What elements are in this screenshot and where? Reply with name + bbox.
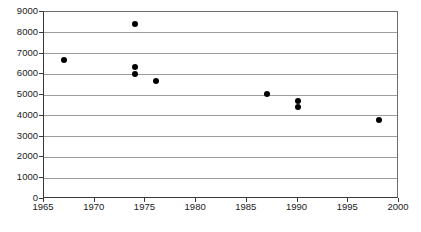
- y-tick-label: 8000: [2, 27, 38, 37]
- x-tick-label: 1965: [23, 202, 63, 212]
- x-tick-label: 1995: [327, 202, 367, 212]
- gridline: [44, 157, 397, 158]
- data-point: [264, 91, 270, 97]
- x-tick-label: 1990: [277, 202, 317, 212]
- x-tick-label: 1970: [74, 202, 114, 212]
- y-tick-label: 3000: [2, 131, 38, 141]
- x-tick-label: 1985: [226, 202, 266, 212]
- data-point: [376, 117, 382, 123]
- y-tick-label: 6000: [2, 68, 38, 78]
- gridline: [44, 32, 397, 33]
- gridline: [44, 178, 397, 179]
- gridline: [44, 53, 397, 54]
- y-tick-label: 2000: [2, 151, 38, 161]
- gridline: [44, 136, 397, 137]
- data-point: [132, 71, 138, 77]
- data-point: [295, 104, 301, 110]
- x-tick-label: 1980: [175, 202, 215, 212]
- y-tick-label: 5000: [2, 89, 38, 99]
- data-point: [153, 78, 159, 84]
- x-tick-label: 1975: [124, 202, 164, 212]
- y-tick-label: 9000: [2, 6, 38, 16]
- data-point: [61, 57, 67, 63]
- y-tick-label: 7000: [2, 48, 38, 58]
- data-point: [132, 64, 138, 70]
- x-tick-label: 2000: [378, 202, 418, 212]
- plot-area: [43, 11, 398, 198]
- gridline: [44, 115, 397, 116]
- gridline: [44, 74, 397, 75]
- data-point: [132, 21, 138, 27]
- y-tick-label: 1000: [2, 172, 38, 182]
- scatter-chart-figure: 0100020003000400050006000700080009000 19…: [0, 0, 421, 232]
- y-tick-label: 4000: [2, 110, 38, 120]
- gridline: [44, 95, 397, 96]
